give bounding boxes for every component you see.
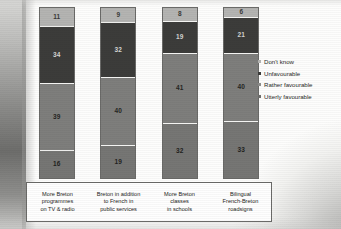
bar-segment[interactable]: 41: [163, 54, 197, 124]
bar-segment[interactable]: 9: [101, 8, 135, 23]
bar-segment-value: 39: [53, 114, 60, 121]
stacked-bar[interactable]: 6214033: [223, 7, 259, 179]
category-label: More Bretonclassesin schools: [149, 183, 210, 221]
bar-segment-value: 34: [53, 52, 60, 59]
bar-segment-value: 19: [115, 159, 122, 166]
category-label-line: Breton in addition: [97, 191, 141, 199]
bar-segment-value: 11: [53, 14, 60, 21]
bar-segment-value: 32: [115, 47, 122, 54]
bar-segment[interactable]: 34: [40, 27, 74, 85]
bar-segment[interactable]: 19: [101, 146, 135, 178]
legend-label: Don't know: [264, 58, 294, 65]
stacked-bar[interactable]: 8194132: [162, 7, 198, 179]
bar-segment-value: 33: [238, 147, 245, 154]
scan-edge-shadow-top: [0, 0, 341, 6]
chart-legend: Don't knowUnfavourableRather favourableU…: [258, 56, 338, 102]
bar-segment-value: 6: [239, 9, 243, 16]
stacked-bars-group: 11343916932401981941326214033: [26, 7, 272, 179]
category-label-line: on TV & radio: [40, 206, 74, 214]
bar-segment[interactable]: 8: [163, 8, 197, 22]
bar-segment-value: 9: [116, 12, 120, 19]
category-label-line: French-Breton: [223, 198, 259, 206]
category-label-line: roadsigns: [228, 206, 252, 214]
bar-segment-value: 32: [176, 148, 183, 155]
category-label: BilingualFrench-Bretonroadsigns: [210, 183, 271, 221]
category-label-line: programmes: [42, 198, 73, 206]
legend-item[interactable]: Don't know: [258, 56, 338, 68]
bar-slot: 9324019: [88, 7, 150, 179]
category-label-line: to French in: [104, 198, 134, 206]
bar-segment-value: 21: [238, 32, 245, 39]
bar-segment-value: 16: [53, 161, 60, 168]
bar-segment[interactable]: 6: [224, 8, 258, 18]
category-label: Breton in additionto French inpublic ser…: [88, 183, 149, 221]
category-label-line: More Breton: [42, 191, 73, 199]
bar-segment[interactable]: 32: [101, 23, 135, 77]
bar-segment[interactable]: 19: [163, 22, 197, 54]
bar-segment-value: 19: [176, 34, 183, 41]
bar-segment-value: 40: [115, 108, 122, 115]
stacked-bar[interactable]: 9324019: [100, 7, 136, 179]
bar-segment[interactable]: 21: [224, 18, 258, 54]
bar-segment[interactable]: 16: [40, 151, 74, 178]
legend-swatch-icon: [258, 72, 261, 75]
legend-label: Utterly favourable: [264, 93, 312, 100]
bar-segment[interactable]: 40: [101, 78, 135, 146]
legend-item[interactable]: Utterly favourable: [258, 91, 338, 103]
legend-item[interactable]: Rather favourable: [258, 79, 338, 91]
bar-segment[interactable]: 11: [40, 8, 74, 27]
category-label-band: More Bretonprogrammeson TV & radioBreton…: [26, 182, 272, 222]
legend-label: Unfavourable: [264, 70, 300, 77]
bar-segment[interactable]: 39: [40, 84, 74, 150]
bar-segment-value: 40: [238, 84, 245, 91]
legend-swatch-icon: [258, 95, 261, 98]
bar-segment-value: 8: [178, 11, 182, 18]
category-label: More Bretonprogrammeson TV & radio: [27, 183, 88, 221]
category-label-line: More Breton: [164, 191, 195, 199]
category-label-line: Bilingual: [230, 191, 251, 199]
chart-figure: 11343916932401981941326214033 More Breto…: [0, 0, 341, 229]
legend-swatch-icon: [258, 60, 261, 63]
bar-slot: 11343916: [26, 7, 88, 179]
bar-segment[interactable]: 32: [163, 124, 197, 178]
category-label-line: in schools: [167, 206, 192, 214]
category-label-line: public services: [100, 206, 137, 214]
legend-label: Rather favourable: [264, 81, 312, 88]
legend-swatch-icon: [258, 83, 261, 86]
bar-slot: 8194132: [149, 7, 211, 179]
legend-item[interactable]: Unfavourable: [258, 68, 338, 80]
bar-segment-value: 41: [176, 85, 183, 92]
plot-area: 11343916932401981941326214033 More Breto…: [26, 7, 272, 222]
bar-segment[interactable]: 40: [224, 54, 258, 122]
category-label-line: classes: [170, 198, 189, 206]
bar-segment[interactable]: 33: [224, 122, 258, 178]
stacked-bar[interactable]: 11343916: [39, 7, 75, 179]
